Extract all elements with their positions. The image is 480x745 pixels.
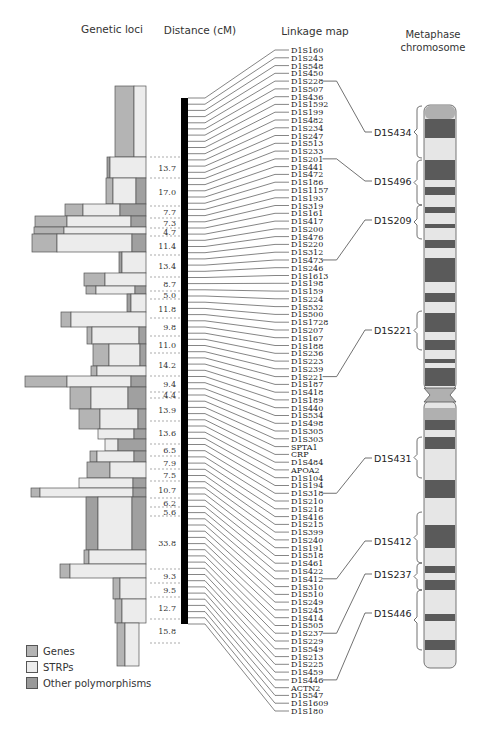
strp-bar-segment <box>134 86 146 157</box>
chromosome-marker-label: D1S434 <box>374 127 412 138</box>
distance-label: 9.3 <box>163 572 176 581</box>
strp-bar-segment <box>91 387 128 409</box>
distance-label: 4.7 <box>163 228 176 237</box>
strp-bar-segment <box>100 409 138 429</box>
strp-bar-segment <box>105 273 146 286</box>
other-bar-segment <box>135 286 146 294</box>
strp-bar-segment <box>109 344 140 366</box>
gene-bar-segment <box>70 387 91 409</box>
gene-bar-segment <box>25 376 67 387</box>
distance-label: 7.9 <box>163 459 176 468</box>
dark-band <box>425 187 455 195</box>
dark-band <box>425 293 455 302</box>
dark-band <box>425 207 455 213</box>
marker-label: D1S180 <box>291 707 323 716</box>
gene-bar-segment <box>60 564 70 578</box>
distance-label: 8.7 <box>163 280 176 289</box>
chromosome-marker-label: D1S209 <box>374 215 412 226</box>
distance-label: 6.5 <box>163 446 176 455</box>
other-bar-segment <box>118 439 146 451</box>
linkage-map-bar <box>181 98 188 624</box>
strp-bar-segment <box>57 234 132 252</box>
chromosome-marker-labels: D1S434D1S496D1S209D1S221D1S431D1S412D1S2… <box>323 81 422 680</box>
dark-band <box>425 258 455 282</box>
dark-band <box>425 580 455 590</box>
other-bar-segment <box>139 327 146 344</box>
distance-label: 7.5 <box>163 471 176 480</box>
distance-labels: 13.717.07.77.34.711.413.48.75.011.89.811… <box>158 164 176 637</box>
legend: Genes STRPs Other polymorphisms <box>26 643 151 691</box>
distance-label: 15.8 <box>158 627 176 636</box>
gene-bar-segment <box>65 204 83 216</box>
other-swatch <box>26 677 38 689</box>
strp-bar-segment <box>110 462 146 478</box>
distance-label: 9.4 <box>163 380 176 389</box>
distance-label: 9.5 <box>163 586 176 595</box>
other-bar-segment <box>136 178 146 204</box>
dark-band <box>425 420 455 430</box>
gene-bar-segment <box>61 312 71 327</box>
legend-item-genes: Genes <box>26 643 151 659</box>
distance-label: 5.6 <box>163 508 176 517</box>
genetic-loci-histogram <box>25 86 146 666</box>
distance-label: 11.4 <box>158 242 176 251</box>
other-bar-segment <box>132 497 146 550</box>
other-bar-segment <box>140 344 146 366</box>
dark-band <box>425 359 455 363</box>
distance-label: 12.7 <box>158 604 176 613</box>
strp-bar-segment <box>97 451 134 462</box>
other-bar-segment <box>127 294 131 312</box>
strp-bar-segment <box>83 204 120 216</box>
dark-band <box>425 340 455 350</box>
distance-label: 5.0 <box>163 291 176 300</box>
strp-bar-segment <box>98 497 132 550</box>
dark-band <box>425 437 455 449</box>
strp-bar-segment <box>98 429 134 439</box>
distance-label: 9.8 <box>163 323 176 332</box>
gene-bar-segment <box>115 86 134 157</box>
strp-bar-segment <box>110 157 146 178</box>
dark-band <box>425 566 455 573</box>
strp-bar-segment <box>89 550 146 564</box>
gene-bar-segment <box>93 344 109 366</box>
distance-label: 7.3 <box>163 219 176 228</box>
gene-bar-segment <box>113 578 120 599</box>
gene-bar-segment <box>115 599 122 623</box>
distance-label: 10.7 <box>158 486 176 495</box>
distance-label: 6.2 <box>163 499 176 508</box>
gene-bar-segment <box>86 286 96 294</box>
chromosome-marker-label: D1S431 <box>374 453 412 464</box>
other-bar-segment <box>131 376 146 387</box>
distance-label: 13.9 <box>158 406 176 415</box>
distance-label: 13.7 <box>158 164 176 173</box>
strp-bar-segment <box>92 327 139 344</box>
gene-bar-segment <box>35 216 67 227</box>
other-bar-segment <box>86 497 98 550</box>
chromosome-marker-label: D1S221 <box>374 325 412 336</box>
gene-bar-segment <box>34 227 64 234</box>
distance-label: 14.2 <box>158 361 176 370</box>
distance-label: 33.8 <box>158 539 176 548</box>
gene-bar-segment <box>31 488 40 497</box>
brace-icon <box>414 590 422 650</box>
gene-bar-segment <box>106 178 113 204</box>
chromosome-marker-label: D1S237 <box>374 569 412 580</box>
strp-bar-segment <box>120 578 146 599</box>
other-bar-segment <box>131 216 146 227</box>
linkage-figure: 13.717.07.77.34.711.413.48.75.011.89.811… <box>0 0 480 745</box>
strp-bar-segment <box>122 599 146 623</box>
strps-swatch <box>26 661 38 673</box>
other-bar-segment <box>119 252 122 273</box>
dark-band <box>425 375 455 386</box>
gene-bar-segment <box>87 327 92 344</box>
other-bar-segment <box>134 451 146 462</box>
strp-bar-segment <box>40 488 133 497</box>
strp-bar-segment <box>70 564 146 578</box>
distance-label: 11.0 <box>158 341 176 350</box>
other-bar-segment <box>107 157 110 178</box>
gene-bar-segment <box>84 273 105 286</box>
other-bar-segment <box>128 387 146 409</box>
strp-bar-segment <box>113 178 136 204</box>
other-bar-segment <box>120 204 146 216</box>
chromosome-marker-label: D1S496 <box>374 176 412 187</box>
